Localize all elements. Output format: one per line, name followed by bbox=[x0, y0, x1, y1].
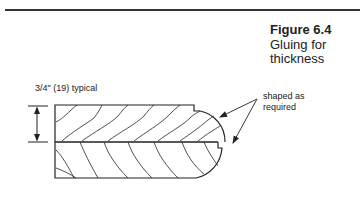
board-drawing bbox=[0, 0, 360, 206]
dimension-arrow bbox=[28, 106, 48, 142]
bottom-board-grain bbox=[56, 142, 218, 178]
bottom-board bbox=[55, 142, 222, 178]
leader-arrows bbox=[220, 99, 257, 143]
